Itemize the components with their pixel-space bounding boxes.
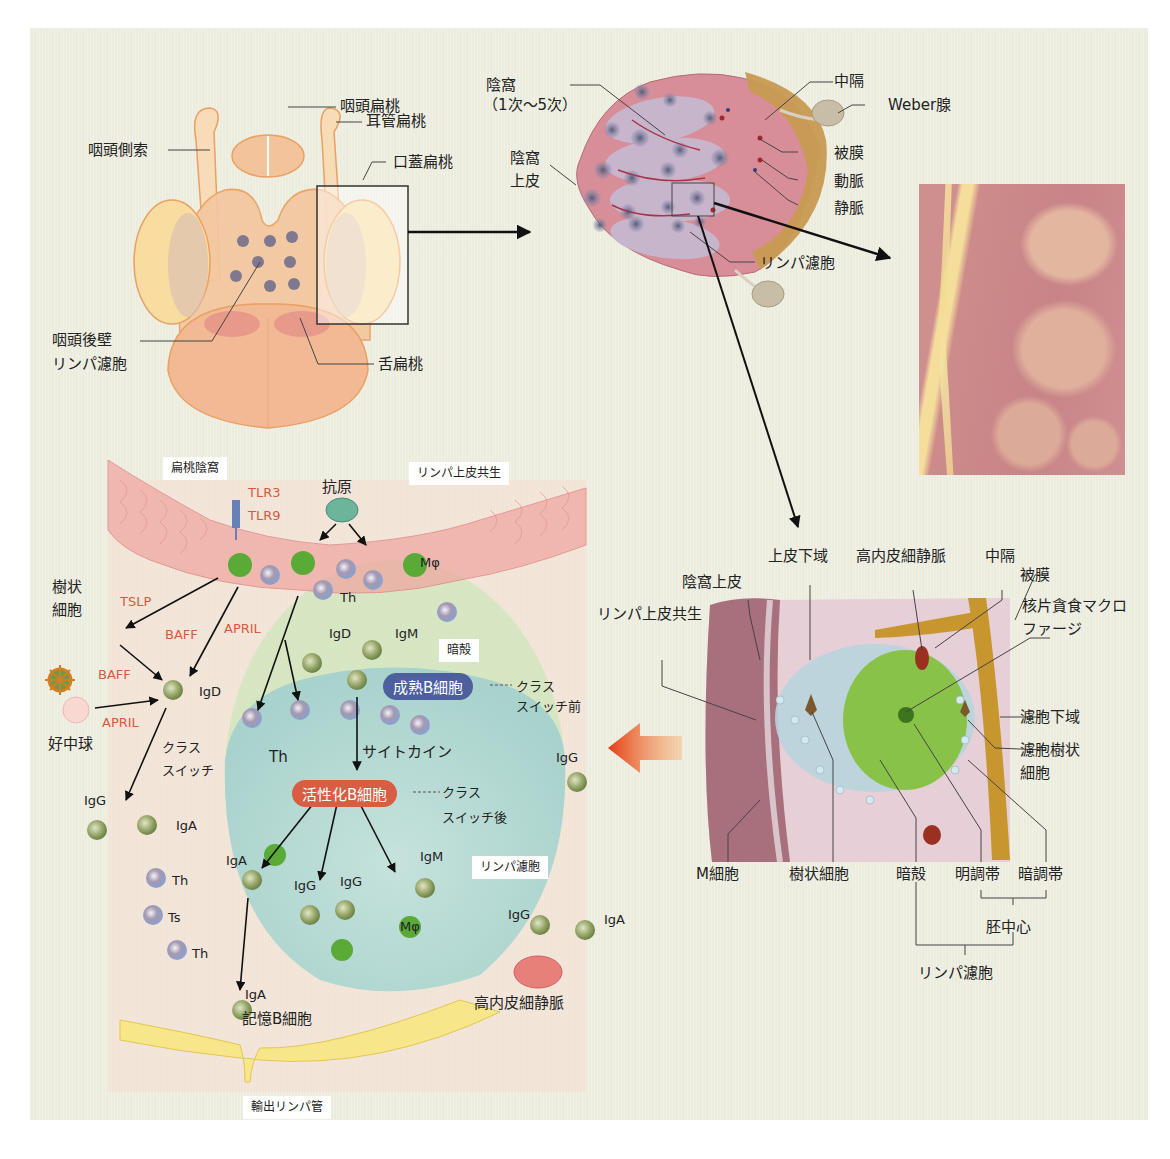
label-baff-1: BAFF — [165, 625, 198, 644]
label-perifollicular-region: 濾胞下域 — [1020, 708, 1080, 727]
label-lymph-follicle-detail: リンパ濾胞 — [918, 964, 993, 983]
label-dendritic-cell-2: 細胞 — [52, 601, 82, 620]
label-class-switch-2: スイッチ — [162, 761, 214, 780]
label-antigen: 抗原 — [322, 478, 352, 497]
label-cytokine: サイトカイン — [362, 743, 452, 762]
label-tslp: TSLP — [120, 592, 151, 611]
box-efferent-lymphatic: 輸出リンパ管 — [243, 1096, 331, 1119]
label-baff-2: BAFF — [98, 665, 131, 684]
label-igg-inner-2: IgG — [340, 872, 362, 891]
label-igg-inner-1: IgG — [294, 876, 316, 895]
label-crypt: 陰窩 — [486, 76, 516, 95]
label-macrophage-inner: Mφ — [400, 917, 420, 936]
label-subepithelial-region: 上皮下域 — [768, 547, 828, 566]
label-igm-inner: IgM — [420, 847, 443, 866]
label-macrophage-top: Mφ — [420, 553, 440, 572]
label-septum: 中隔 — [834, 72, 864, 91]
label-fdc-2: 細胞 — [1020, 764, 1050, 783]
label-igg-right: IgG — [508, 905, 530, 924]
label-tlr3: TLR3 — [248, 483, 281, 502]
follicle-detail-illustration — [705, 598, 1010, 862]
label-tlr9: TLR9 — [248, 506, 281, 525]
box-tonsillar-crypt: 扁桃陰窩 — [163, 457, 227, 480]
label-light-zone: 明調帯 — [955, 865, 1000, 884]
diagram-graphics — [0, 0, 1170, 1159]
label-crypt-epithelium-2: 上皮 — [510, 172, 540, 191]
label-igm-top: IgM — [395, 624, 418, 643]
label-m-cell: M細胞 — [696, 865, 739, 884]
label-palatine-tonsil: 口蓋扁桃 — [393, 153, 453, 172]
label-dark-zone: 暗調帯 — [1018, 865, 1063, 884]
label-dendritic-cell-detail: 樹状細胞 — [789, 865, 849, 884]
pill-activated-b-cell: 活性化B細胞 — [292, 780, 397, 807]
label-fdc-1: 濾胞樹状 — [1020, 741, 1080, 760]
label-class-switch-1: クラス — [162, 738, 201, 757]
label-crypt-order: （1次～5次） — [483, 96, 577, 115]
label-tubal-tonsil: 耳管扁桃 — [366, 112, 426, 131]
box-lymphoepithelial-symbiosis: リンパ上皮共生 — [409, 462, 509, 485]
label-april-2: APRIL — [102, 713, 139, 732]
label-tingible-body-macrophage-2: ファージ — [1022, 620, 1082, 639]
label-lymphoepithelial-symbiosis: リンパ上皮共生 — [597, 605, 702, 624]
label-mantle-zone: 暗殻 — [896, 865, 926, 884]
label-april-1: APRIL — [224, 619, 261, 638]
label-pre-switch-2: スイッチ前 — [516, 697, 581, 716]
label-pre-switch-1: クラス — [516, 677, 555, 696]
label-dendritic-cell-1: 樹状 — [52, 578, 82, 597]
pharynx-illustration — [134, 108, 408, 428]
label-igg-left: IgG — [84, 791, 106, 810]
label-neutrophil: 好中球 — [48, 735, 93, 754]
label-weber-gland: Weber腺 — [888, 96, 951, 115]
label-igd-top: IgD — [329, 624, 351, 643]
label-iga-memory: IgA — [245, 985, 266, 1004]
box-mantle: 暗殻 — [439, 639, 479, 662]
label-posterior-pharyngeal-follicle-2: リンパ濾胞 — [52, 355, 127, 374]
label-igg-right-single: IgG — [556, 748, 578, 767]
label-vein: 静脈 — [834, 199, 864, 218]
label-th-mid: Th — [269, 748, 288, 767]
label-capsule-detail: 被膜 — [1020, 566, 1050, 585]
label-post-switch-1: クラス — [442, 783, 481, 802]
label-capsule: 被膜 — [834, 144, 864, 163]
label-crypt-epithelium-detail: 陰窩上皮 — [682, 573, 742, 592]
orange-left-arrow — [608, 723, 682, 773]
label-iga-inner: IgA — [226, 851, 247, 870]
label-igd-left: IgD — [199, 682, 221, 701]
label-germinal-center: 胚中心 — [986, 918, 1031, 937]
label-crypt-epithelium-1: 陰窩 — [510, 149, 540, 168]
label-th-2: Th — [192, 944, 208, 963]
histology-photo — [919, 184, 1125, 475]
label-posterior-pharyngeal-follicle-1: 咽頭後壁 — [52, 331, 112, 350]
label-hev: 高内皮細静脈 — [856, 547, 946, 566]
label-lateral-pharyngeal-band: 咽頭側索 — [88, 141, 148, 160]
label-septum-detail: 中隔 — [985, 547, 1015, 566]
label-iga-right: IgA — [604, 910, 625, 929]
pill-mature-b-cell: 成熟B細胞 — [383, 673, 473, 700]
label-lingual-tonsil: 舌扁桃 — [378, 355, 423, 374]
label-memory-b-cell: 記憶B細胞 — [242, 1010, 312, 1029]
label-post-switch-2: スイッチ後 — [442, 808, 507, 827]
label-ts: Ts — [168, 908, 181, 927]
label-iga-left: IgA — [176, 816, 197, 835]
label-lymph-follicle: リンパ濾胞 — [760, 254, 835, 273]
label-th-1: Th — [172, 871, 188, 890]
label-hev-immune: 高内皮細静脈 — [474, 994, 564, 1013]
label-tingible-body-macrophage-1: 核片貪食マクロ — [1022, 597, 1127, 616]
label-th-top: Th — [340, 588, 356, 607]
box-lymph-follicle: リンパ濾胞 — [472, 856, 548, 879]
label-artery: 動脈 — [834, 172, 864, 191]
